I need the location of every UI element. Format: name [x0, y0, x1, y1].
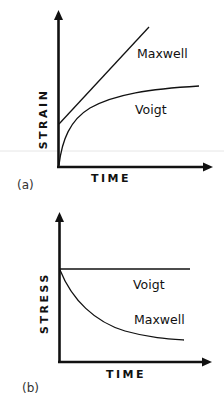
y-axis-arrow-icon — [55, 212, 64, 222]
voigt-curve-a — [59, 86, 199, 165]
maxwell-label-a: Maxwell — [137, 46, 188, 61]
x-axis-arrow-icon — [202, 358, 212, 367]
maxwell-label-b: Maxwell — [134, 312, 185, 327]
panel-label-a: (a) — [17, 178, 34, 192]
maxwell-curve-b — [60, 270, 184, 340]
y-axis-label-b: STRESS — [38, 272, 51, 334]
panel-b: Voigt Maxwell TIME STRESS (b) — [22, 212, 212, 395]
x-axis-label-b: TIME — [106, 368, 146, 381]
y-axis-arrow-icon — [54, 10, 63, 20]
x-axis-label-a: TIME — [91, 172, 131, 185]
panel-a: Maxwell Voigt TIME STRAIN (a) — [17, 10, 213, 192]
x-axis-arrow-icon — [203, 163, 213, 172]
voigt-label-b: Voigt — [133, 277, 165, 292]
voigt-label-a: Voigt — [135, 102, 167, 117]
viscoelastic-diagram: Maxwell Voigt TIME STRAIN (a) Voigt Maxw… — [0, 0, 224, 401]
y-axis-label-a: STRAIN — [37, 89, 50, 150]
panel-label-b: (b) — [22, 381, 39, 395]
